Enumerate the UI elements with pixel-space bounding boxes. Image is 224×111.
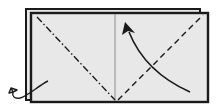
origami-diagram <box>0 0 224 111</box>
